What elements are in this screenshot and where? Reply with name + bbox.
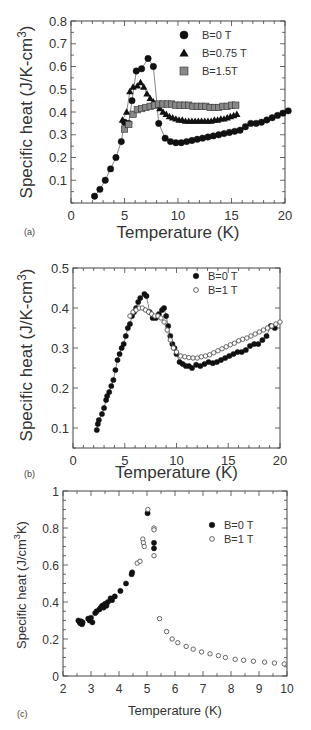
y-tick-label: 0.3 <box>51 341 69 356</box>
y-axis-title: Specific heat (J/cm3K) <box>12 521 29 649</box>
y-tick-label: 0.6 <box>42 559 59 573</box>
chart-panel-a: 051015200.10.20.30.40.50.60.70.8Temperat… <box>0 0 311 240</box>
y-tick-label: 0.8 <box>42 522 59 536</box>
x-axis-title: Temperature (K) <box>115 463 238 482</box>
y-tick-label: 0.2 <box>49 150 67 165</box>
legend-entry: B=0.75 T <box>179 47 247 59</box>
series-b-0-t <box>76 511 157 627</box>
legend-entry: B=1.5T <box>180 65 238 77</box>
x-tick-label: 3 <box>88 682 95 696</box>
y-tick-label: 0.4 <box>51 301 69 316</box>
y-tick-label: 0.2 <box>51 381 69 396</box>
chart-panel-b: 051015200.10.20.30.40.5Temperature (K)Sp… <box>0 240 311 485</box>
x-tick-label: 8 <box>228 682 235 696</box>
plot-frame <box>73 268 280 448</box>
y-tick-label: 0.4 <box>42 596 59 610</box>
chart-a-plot: 051015200.10.20.30.40.50.60.70.8Temperat… <box>0 0 311 240</box>
x-tick-label: 4 <box>116 682 123 696</box>
y-tick-label: 0.5 <box>49 82 67 97</box>
series-b-1-t <box>135 507 286 666</box>
svg-text:B=1.5T: B=1.5T <box>202 65 238 77</box>
x-tick-label: 0 <box>69 453 76 468</box>
x-axis-title: Temperature (K) <box>128 703 222 718</box>
y-tick-label: 0.8 <box>49 14 67 29</box>
legend-entry: B=0 T <box>193 270 238 282</box>
plot-frame <box>71 21 285 203</box>
axis-ticks <box>73 268 280 448</box>
chart-c-plot: 234567891000.20.40.60.81Temperature (K)S… <box>0 485 311 730</box>
y-tick-label: 0 <box>52 670 59 684</box>
y-axis-title: Specific heat (J/K-cm3) <box>15 269 36 442</box>
panel-label: (a) <box>24 227 35 237</box>
x-tick-label: 5 <box>121 208 128 223</box>
x-tick-label: 9 <box>256 682 263 696</box>
panel-label: (c) <box>17 709 28 719</box>
chart-panel-c: 234567891000.20.40.60.81Temperature (K)S… <box>0 485 311 730</box>
x-tick-label: 15 <box>224 208 238 223</box>
chart-b-plot: 051015200.10.20.30.40.5Temperature (K)Sp… <box>0 240 311 485</box>
x-tick-label: 20 <box>278 208 292 223</box>
y-tick-label: 0.3 <box>49 127 67 142</box>
y-tick-label: 0.4 <box>49 105 67 120</box>
x-tick-label: 5 <box>144 682 151 696</box>
x-tick-label: 7 <box>200 682 207 696</box>
legend-entry: B=1 T <box>210 533 254 545</box>
x-tick-label: 6 <box>172 682 179 696</box>
svg-text:B=1 T: B=1 T <box>208 284 238 296</box>
y-tick-label: 0.1 <box>51 421 69 436</box>
x-tick-label: 0 <box>67 208 74 223</box>
y-tick-label: 1 <box>52 485 59 499</box>
svg-text:B=1 T: B=1 T <box>224 533 254 545</box>
panel-label: (b) <box>24 469 35 479</box>
svg-text:B=0 T: B=0 T <box>202 29 232 41</box>
y-tick-label: 0.7 <box>49 36 67 51</box>
series-b-0-75-t <box>119 79 241 124</box>
series-b-0-t <box>94 291 277 432</box>
x-tick-label: 10 <box>171 208 185 223</box>
y-tick-label: 0.2 <box>42 633 59 647</box>
series-b-1-t <box>128 306 282 360</box>
legend-entry: B=1 T <box>194 284 238 296</box>
axis-ticks <box>71 21 285 203</box>
svg-text:B=0 T: B=0 T <box>224 519 254 531</box>
legend-entry: B=0 T <box>209 519 254 531</box>
y-tick-label: 0.6 <box>49 59 67 74</box>
x-tick-label: 2 <box>60 682 67 696</box>
x-tick-label: 20 <box>273 453 287 468</box>
y-tick-label: 0.5 <box>51 261 69 276</box>
y-axis-title: Specific heat (J/K-cm3) <box>15 26 36 199</box>
svg-text:B=0 T: B=0 T <box>208 270 238 282</box>
y-tick-label: 0.1 <box>49 173 67 188</box>
x-tick-label: 10 <box>280 682 294 696</box>
svg-text:B=0.75 T: B=0.75 T <box>202 47 247 59</box>
legend-entry: B=0 T <box>180 29 232 41</box>
